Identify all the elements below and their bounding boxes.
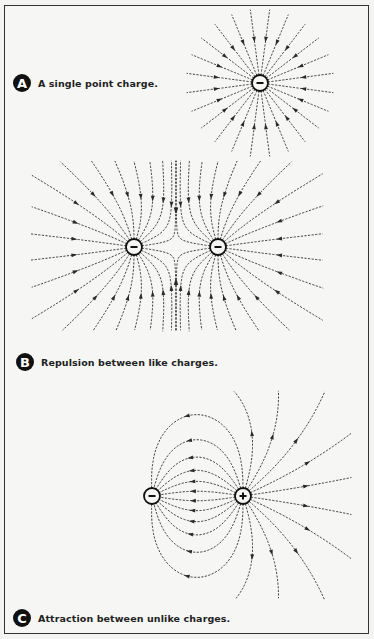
arrow-icon [72,270,78,274]
figure-a-single-charge [187,10,334,157]
arrow-icon [216,63,222,67]
arrow-icon [304,461,310,466]
figure-c-attraction [144,391,351,599]
field-line [152,415,243,489]
figure-b-repulsion [31,161,323,332]
arrow-icon [111,295,115,301]
arrow-icon [186,550,192,554]
arrow-icon [252,37,256,43]
field-line [134,161,142,239]
field-line [31,248,126,260]
field-line [218,255,236,330]
badge-b-icon: B [16,353,34,371]
field-line [116,255,134,330]
field-line [92,161,132,239]
arrow-icon [274,199,280,204]
arrow-icon [179,202,183,208]
field-line [199,254,214,330]
arrow-icon [109,191,113,197]
field-line [211,161,219,239]
field-line [222,162,291,241]
arrow-icon [186,438,192,442]
arrow-icon [300,87,306,91]
field-line [250,434,351,493]
caption-a: A A single point charge. [13,74,158,92]
arrow-icon [276,254,282,258]
field-line [93,255,132,331]
arrow-icon [264,37,268,43]
arrow-icon [276,219,282,223]
arrow-icon [71,253,77,257]
arrow-icon [264,123,268,129]
field-line [60,162,129,241]
arrow-icon [240,39,244,45]
field-line [180,250,211,330]
arrow-icon [285,45,290,51]
arrow-icon [274,290,280,295]
arrow-icon [190,489,196,493]
field-line [31,234,126,246]
arrow-icon [187,533,193,537]
field-line [236,504,252,599]
field-line [63,254,130,331]
field-line [140,161,164,242]
arrow-icon [293,548,298,554]
field-line [247,503,278,599]
field-line [155,502,238,535]
arrow-icon [303,503,309,507]
arrow-icon [187,289,191,295]
arrow-icon [293,438,298,444]
arrow-icon [125,192,129,198]
field-line [180,161,211,244]
field-line [226,234,323,246]
arrow-icon [162,289,166,295]
arrow-icon [179,285,183,291]
field-line [199,161,214,240]
field-line [141,161,172,244]
arrow-icon [222,53,228,58]
arrow-icon [276,271,282,275]
arrow-icon [151,291,155,297]
arrow-icon [73,289,79,294]
arrow-icon [300,75,306,79]
arrow-icon [170,285,174,291]
field-line [211,255,218,330]
arrow-icon [125,295,129,301]
caption-b-text: Repulsion between like charges. [41,357,218,368]
arrow-icon [269,549,273,555]
arrow-icon [197,291,201,297]
field-line [32,175,128,242]
arrow-icon [230,45,235,51]
field-line [159,497,235,501]
field-line [220,255,258,331]
arrow-icon [197,196,201,202]
arrow-icon [214,75,220,79]
field-line [218,161,237,239]
arrow-icon [223,192,227,198]
field-line [138,254,153,330]
arrow-icon [238,191,242,197]
caption-a-text: A single point charge. [38,78,158,89]
field-line [225,250,323,288]
arrow-icon [252,123,256,129]
arrow-icon [303,485,309,489]
arrow-icon [298,99,304,103]
arrow-icon [270,434,274,440]
arrow-icon [276,39,280,45]
field-line [224,252,323,320]
arrow-icon [189,468,195,472]
arrow-icon [222,108,228,113]
field-line [159,491,235,495]
field-line [135,255,142,330]
arrow-icon [72,220,78,224]
field-lines-canvas [0,0,374,639]
arrow-icon [71,237,77,241]
caption-b: B Repulsion between like charges. [16,353,218,371]
field-line [224,174,323,242]
field-line [249,501,324,599]
arrow-icon [292,53,298,58]
arrow-icon [237,295,241,301]
arrow-icon [187,455,193,459]
arrow-icon [250,554,254,560]
field-line [32,207,127,244]
